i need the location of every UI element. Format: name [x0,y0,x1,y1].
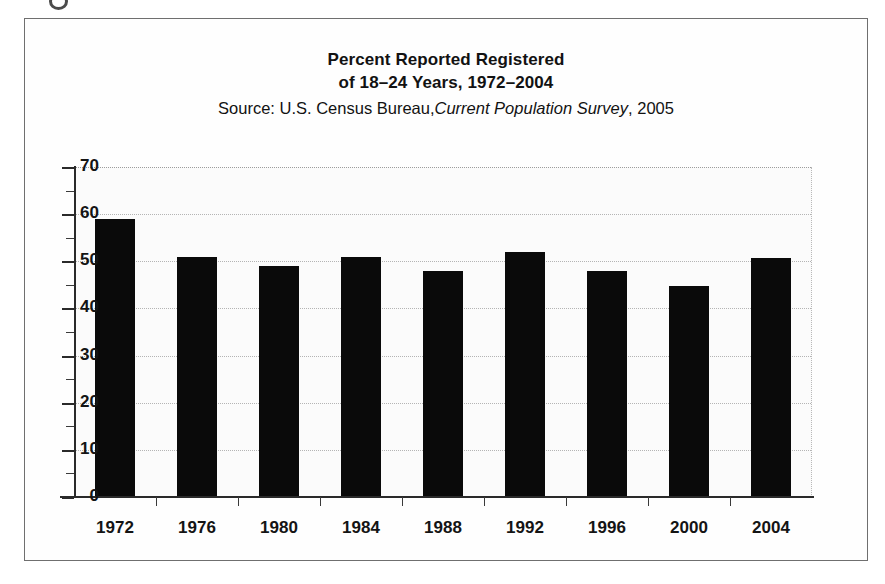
y-axis-label-60: 60 [51,203,99,223]
y-tick-minor-45 [66,285,74,286]
x-axis-label-2004: 2004 [726,518,816,538]
x-tick-3 [402,497,403,506]
gridline-60 [74,214,811,215]
y-axis-label-70: 70 [51,156,99,176]
x-axis-line [60,496,814,498]
bar-2004 [751,258,791,497]
y-tick-minor-35 [66,332,74,333]
plot-background [74,167,812,497]
x-axis-label-1992: 1992 [480,518,570,538]
x-axis-label-1984: 1984 [316,518,406,538]
source-suffix: , 2005 [628,99,674,117]
plot-area [74,167,812,497]
bar-1992 [505,252,545,497]
bar-2000 [669,286,709,497]
gridline-70 [74,167,811,168]
x-tick-6 [648,497,649,506]
bar-1980 [259,266,299,497]
y-tick-minor-15 [66,426,74,427]
x-tick-2 [320,497,321,506]
chart-title-line-2: of 18–24 Years, 1972–2004 [40,71,852,94]
source-publication: Current Population Survey [435,99,629,117]
chart-title-line-1: Percent Reported Registered [40,48,852,71]
x-tick-0 [156,497,157,506]
chart-source-note: Source: U.S. Census Bureau,Current Popul… [40,96,852,120]
x-axis-label-2000: 2000 [644,518,734,538]
y-axis-label-40: 40 [51,297,99,317]
x-axis-label-1996: 1996 [562,518,652,538]
source-prefix: Source: U.S. Census Bureau, [218,99,434,117]
x-tick-7 [730,497,731,506]
chart-figure: Percent Reported Registered of 18–24 Yea… [0,0,885,584]
bar-1972 [95,219,135,497]
y-tick-minor-55 [66,238,74,239]
scan-artifact [49,0,68,10]
x-axis-label-1980: 1980 [234,518,324,538]
bar-1984 [341,257,381,497]
x-axis-label-1972: 1972 [70,518,160,538]
bar-1988 [423,271,463,497]
y-tick-minor-65 [66,191,74,192]
x-axis-label-1976: 1976 [152,518,242,538]
x-tick-4 [484,497,485,506]
y-axis-label-10: 10 [51,439,99,459]
y-axis-label-20: 20 [51,392,99,412]
y-axis-label-50: 50 [51,250,99,270]
chart-title-block: Percent Reported Registered of 18–24 Yea… [40,48,852,120]
y-axis-label-0: 0 [51,486,99,506]
x-tick-5 [566,497,567,506]
y-axis-label-30: 30 [51,345,99,365]
bar-1996 [587,271,627,497]
x-axis-label-1988: 1988 [398,518,488,538]
y-tick-minor-5 [66,473,74,474]
bar-1976 [177,257,217,497]
x-tick-1 [238,497,239,506]
y-tick-minor-25 [66,379,74,380]
